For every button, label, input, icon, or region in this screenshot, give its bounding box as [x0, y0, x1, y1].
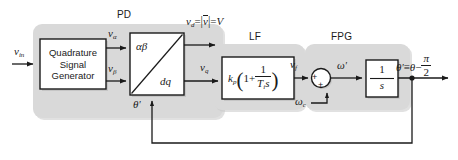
qsg-line-3: Generator	[40, 70, 106, 82]
signal-label-v-f: vf	[290, 59, 297, 72]
integrator-denominator: s	[366, 77, 398, 94]
block-label-integrator: 1 s	[366, 61, 398, 94]
omega-prime-base: ω	[337, 59, 345, 71]
transform-label-dq: dq	[160, 76, 171, 87]
signal-label-omega-c: ωc	[295, 96, 306, 109]
signal-label-v-in: vin	[14, 46, 24, 59]
signal-label-theta-prime-feedback: θ′	[133, 99, 141, 110]
v-beta-sub: β	[113, 68, 117, 76]
signal-label-omega-prime: ω′	[337, 60, 347, 71]
signal-label-theta-output-equation: θ′≡θ− π 2	[396, 53, 431, 78]
integrator-numerator: 1	[366, 61, 398, 77]
lf-paren-close: )	[271, 68, 278, 92]
v-f-sub: f	[295, 64, 297, 72]
omega-c-base: ω	[295, 95, 303, 107]
group-caption-pd: PD	[117, 10, 131, 20]
group-caption-lf: LF	[249, 32, 261, 42]
qsg-line-1: Quadrature	[40, 47, 106, 59]
lf-frac-den-s: s	[265, 77, 269, 89]
signal-label-v-alpha: vα	[108, 28, 117, 41]
omega-prime-mark: ′	[345, 60, 347, 71]
lf-fraction: 1 Tis	[255, 64, 271, 91]
signal-label-vd-equation: vd=|v|=V	[186, 15, 223, 29]
theta-fb-prime: ′	[138, 99, 140, 110]
transform-label-alphabeta: αβ	[136, 41, 147, 52]
v-alpha-sub: α	[113, 33, 117, 41]
lf-frac-denominator: Tis	[255, 77, 271, 92]
qsg-line-2: Signal	[40, 59, 106, 71]
signal-label-v-q: vq	[200, 62, 208, 75]
omega-c-sub: c	[303, 101, 306, 109]
block-label-loop-filter: kp(1+ 1 Tis )	[228, 64, 278, 91]
sum-sign-left: +	[312, 73, 317, 82]
block-label-qsg: Quadrature Signal Generator	[40, 47, 106, 82]
theta-out-two: 2	[421, 66, 431, 78]
v-in-sub: in	[19, 51, 24, 59]
group-caption-fpg: FPG	[331, 32, 352, 42]
theta-out-fraction: π 2	[421, 53, 431, 78]
vd-magnitude-V: V	[217, 15, 224, 27]
sum-sign-bottom: +	[318, 81, 323, 90]
signal-label-v-beta: vβ	[108, 63, 116, 76]
pll-block-diagram: PD LF FPG Quadrature Signal Generator αβ…	[0, 0, 458, 160]
v-q-sub: q	[205, 67, 209, 75]
theta-out-pi: π	[421, 53, 431, 66]
lf-frac-numerator: 1	[255, 64, 271, 77]
